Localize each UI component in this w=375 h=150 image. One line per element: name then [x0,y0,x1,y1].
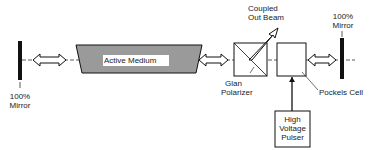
pockels-cell-label: Pockels Cell [319,88,363,97]
double-arrow-icon [308,54,336,66]
active-medium-label: Active Medium [104,56,156,65]
left-mirror [18,41,22,80]
right-mirror [340,38,344,79]
double-arrow-icon [33,54,66,66]
pockels-cell [277,43,318,90]
hv-pulser-label: High Voltage Pulser [275,115,310,142]
double-arrow-icon [199,54,228,66]
diagram-graphics [0,0,375,150]
glan-polarizer-label: Glan Polarizer [221,79,253,97]
right-mirror-label: 100% Mirror [328,12,358,30]
left-mirror-label: 100% Mirror [4,92,36,110]
laser-cavity-diagram: 100% Mirror Active Medium Coupled Out Be… [0,0,375,150]
coupled-out-beam-label: Coupled Out Beam [248,4,284,22]
